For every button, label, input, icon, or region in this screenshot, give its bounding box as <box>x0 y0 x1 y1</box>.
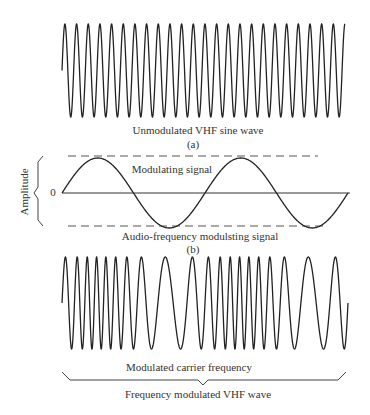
amplitude-axis-label: Amplitude <box>18 168 30 215</box>
caption-modulated-carrier: Modulated carrier frequency <box>126 361 252 373</box>
unmodulated-carrier-wave <box>62 24 345 117</box>
caption-unmodulated: Unmodulated VHF sine wave <box>133 124 264 136</box>
fm-diagram <box>0 0 370 415</box>
carrier-brace <box>62 372 346 385</box>
zero-label: 0 <box>50 186 56 198</box>
modulating-signal-label: Modulating signal <box>132 163 212 175</box>
label-b: (b) <box>187 243 200 255</box>
amplitude-brace <box>34 156 43 226</box>
frequency-modulated-wave <box>62 257 348 349</box>
caption-audio-signal: Audio-frequency modulsting signal <box>122 230 278 242</box>
caption-fm-wave: Frequency modulated VHF wave <box>125 388 271 400</box>
label-a: (a) <box>187 138 199 150</box>
